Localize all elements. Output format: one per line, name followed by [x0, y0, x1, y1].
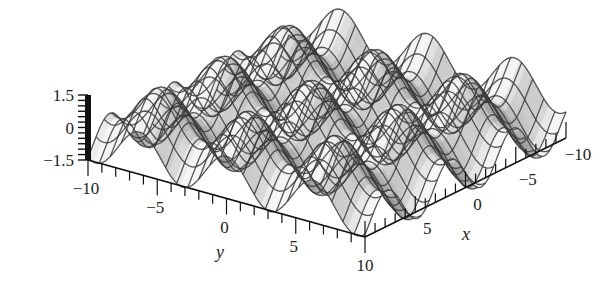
y-tick-label: −10 — [73, 179, 100, 198]
y-tick-label: 10 — [357, 256, 374, 275]
y-axis-label: y — [214, 242, 224, 262]
x-tick-label: 5 — [423, 219, 432, 238]
surface-plot: −10−50510−10−505−1.501.5 y x — [0, 0, 611, 290]
z-tick-label: −1.5 — [43, 151, 74, 170]
y-tick-label: −5 — [146, 198, 164, 217]
y-tick-label: 0 — [220, 218, 229, 237]
z-tick-label: 1.5 — [53, 86, 74, 105]
z-tick-label: 0 — [66, 119, 75, 138]
x-axis-label: x — [461, 224, 470, 244]
x-tick-label: 0 — [473, 195, 482, 214]
x-tick-label: −5 — [519, 170, 537, 189]
x-tick-label: −10 — [565, 145, 592, 164]
y-tick-label: 5 — [290, 237, 299, 256]
